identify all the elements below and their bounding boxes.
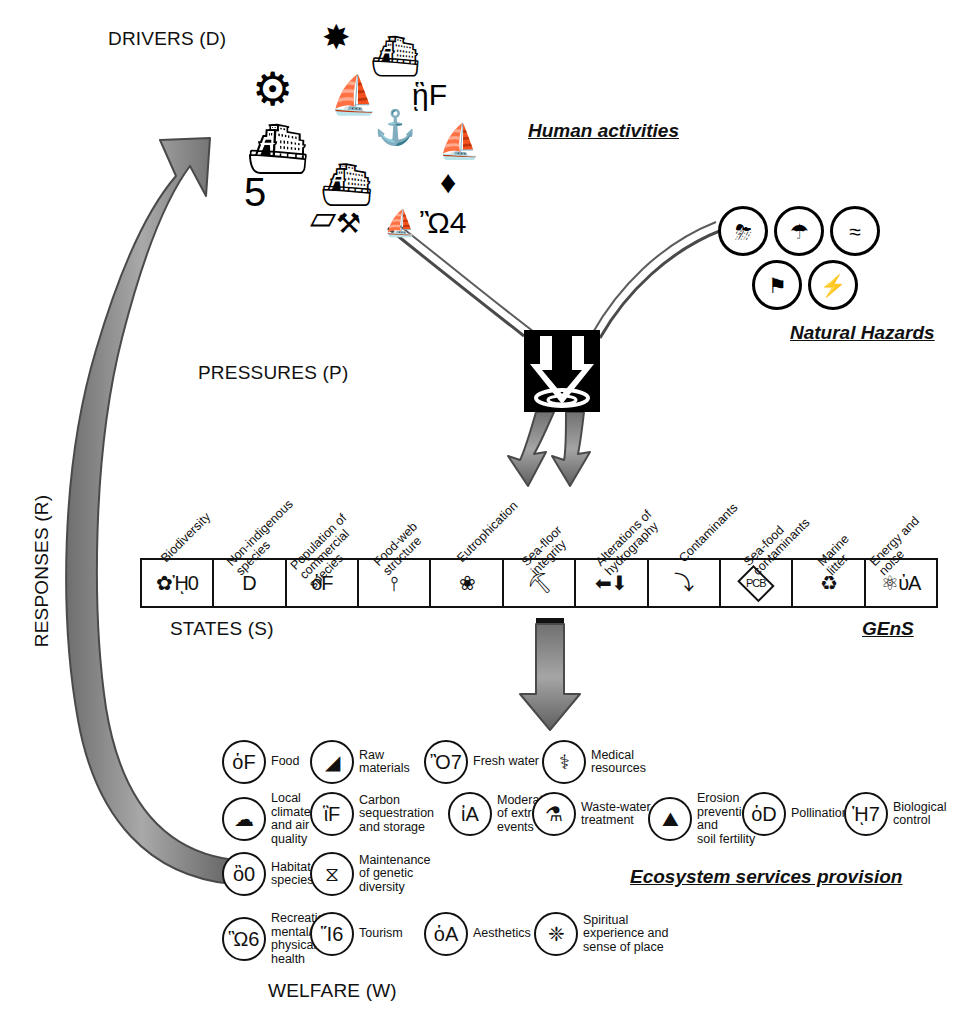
local-climate-icon: ☁ [222,797,266,841]
genetic-diversity-icon: ⧖ [310,852,354,896]
ecosystem-service-caption: Maintenance of genetic diversity [359,854,431,895]
erosion-prevention-icon: ⛰ [648,797,692,841]
ecosystem-service-item: ὁFFood [222,740,300,784]
waste-water-icon: ⚗ [532,792,576,836]
ecosystem-service-caption: Local climate and air quality [271,792,311,846]
ecosystem-service-item: ὁDPollination [742,792,849,836]
ecosystem-service-item: Ἵ6Tourism [310,912,403,956]
ecosystem-service-caption: Biological control [893,801,947,828]
ecosystem-service-item: ⚕Medical resources [542,740,646,784]
ecosystem-service-item: Ὂ7Fresh water [424,740,539,784]
tourism-icon: Ἵ6 [310,912,354,956]
ecosystem-service-caption: Tourism [359,927,403,941]
ecosystem-service-caption: Fresh water [473,755,539,769]
raw-materials-icon: ◢ [310,740,354,784]
ecosystem-service-item: ὁAAesthetics [424,912,531,956]
ecosystem-service-item: ⧖Maintenance of genetic diversity [310,852,431,896]
ecosystem-service-caption: Carbon sequestration and storage [359,794,434,835]
ecosystem-service-item: ☁Local climate and air quality [222,792,311,846]
ecosystem-service-caption: Food [271,755,300,769]
ecosystem-service-caption: Raw materials [359,749,410,776]
ecosystem-services-group: ὁFFood◢Raw materialsὊ7Fresh water⚕Medica… [0,0,969,1029]
ecosystem-service-item: ἳFCarbon sequestration and storage [310,792,434,836]
ecosystem-service-item: ◢Raw materials [310,740,410,784]
recreation-health-icon: Ὣ6 [222,917,266,961]
fish-food-icon: ὁF [222,740,266,784]
carbon-storage-icon: ἳF [310,792,354,836]
fresh-water-icon: Ὂ7 [424,740,468,784]
ecosystem-service-caption: Spiritual experience and sense of place [583,914,668,955]
habitat-species-icon: ὂ0 [222,852,266,896]
ecosystem-service-caption: Medical resources [591,749,646,776]
pollination-icon: ὁD [742,792,786,836]
ecosystem-service-caption: Pollination [791,807,849,821]
ecosystem-service-item: ❈Spiritual experience and sense of place [534,912,668,956]
ecosystem-service-caption: Waste-water treatment [581,801,651,828]
aesthetics-spiral-icon: ὁA [424,912,468,956]
spiritual-icon: ❈ [534,912,578,956]
ecosystem-service-item: ⛰Erosion prevention and soil fertility [648,792,755,846]
ecosystem-service-item: ⚗Waste-water treatment [532,792,651,836]
medical-caduceus-icon: ⚕ [542,740,586,784]
extreme-events-icon: ἰA [448,792,492,836]
biological-control-icon: ᾙ7 [844,792,888,836]
dpsir-diagram: DRIVERS (D) PRESSURES (P) STATES (S) WEL… [0,0,969,1029]
ecosystem-service-caption: Aesthetics [473,927,531,941]
ecosystem-service-item: ᾙ7Biological control [844,792,947,836]
